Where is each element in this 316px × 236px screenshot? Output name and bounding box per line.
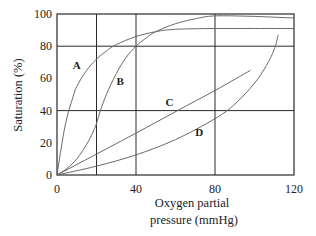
y-tick-label: 0 (46, 168, 52, 182)
x-tick-label: 80 (209, 182, 221, 196)
x-tick-label: 0 (54, 182, 60, 196)
curve-a (57, 28, 294, 175)
y-tick-label: 80 (40, 39, 52, 53)
curve-b (57, 16, 294, 175)
y-tick-label: 100 (34, 7, 52, 21)
y-tick-label: 20 (40, 136, 52, 150)
curve-label-d: D (195, 126, 203, 138)
oxygen-saturation-chart: ABCD 04080120 020406080100 Saturation (%… (0, 0, 316, 236)
curve-label-c: C (166, 96, 174, 108)
y-tick-label: 60 (40, 71, 52, 85)
x-tick-label: 120 (285, 182, 303, 196)
plot-frame (57, 14, 294, 175)
curve-label-a: A (73, 59, 81, 71)
x-axis-title-line-1: Oxygen partial (155, 196, 230, 210)
x-tick-label: 40 (130, 182, 142, 196)
y-axis-ticks: 020406080100 (34, 7, 52, 182)
curve-c (57, 70, 251, 175)
curve-labels: ABCD (73, 59, 203, 139)
grid-lines (57, 14, 294, 175)
curves (57, 16, 294, 175)
y-axis-title: Saturation (%) (11, 58, 25, 131)
y-tick-label: 40 (40, 104, 52, 118)
x-axis-ticks: 04080120 (54, 182, 303, 196)
x-axis-title-line-2: pressure (mmHg) (150, 213, 238, 227)
curve-label-b: B (117, 75, 125, 87)
